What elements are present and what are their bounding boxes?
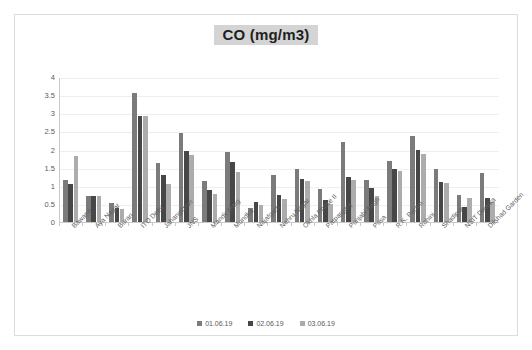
y-axis-tick-label: 4 <box>29 74 55 82</box>
bar[interactable] <box>387 161 392 223</box>
legend-item[interactable]: 01.06.19 <box>197 320 232 327</box>
chart-container: CO (mg/m3) 00.511.522.533.54 BawanaAya N… <box>14 14 518 336</box>
bar[interactable] <box>74 156 79 223</box>
bar[interactable] <box>138 116 143 223</box>
y-axis-tick-label: 0 <box>29 219 55 227</box>
y-axis-tick-label: 2.5 <box>29 129 55 137</box>
y-axis-labels: 00.511.522.533.54 <box>29 78 55 223</box>
bar-group <box>453 78 476 223</box>
chart-title-container: CO (mg/m3) <box>15 25 517 45</box>
bar-group <box>82 78 105 223</box>
bar-group <box>128 78 151 223</box>
bar[interactable] <box>439 182 444 223</box>
bar[interactable] <box>63 180 68 224</box>
y-axis-tick-label: 1.5 <box>29 165 55 173</box>
bar[interactable] <box>68 184 73 223</box>
bar-group <box>59 78 82 223</box>
bar-group <box>267 78 290 223</box>
legend-swatch-icon <box>197 321 202 326</box>
chart-legend: 01.06.1902.06.1903.06.19 <box>15 320 517 327</box>
chart-title: CO (mg/m3) <box>214 25 317 45</box>
legend-item[interactable]: 02.06.19 <box>248 320 283 327</box>
bar[interactable] <box>189 155 194 223</box>
bar-group <box>105 78 128 223</box>
x-axis-labels: BawanaAya NagarBurariITO DelhiJahangirpu… <box>59 225 499 305</box>
bar[interactable] <box>230 162 235 223</box>
bar-series-layer <box>59 78 499 223</box>
bar[interactable] <box>392 169 397 223</box>
bar[interactable] <box>421 154 426 223</box>
plot-area <box>59 78 499 223</box>
legend-swatch-icon <box>248 321 253 326</box>
bar[interactable] <box>161 175 166 223</box>
bar[interactable] <box>132 93 137 224</box>
y-axis-tick-label: 3.5 <box>29 92 55 100</box>
bar-group <box>152 78 175 223</box>
legend-label: 02.06.19 <box>256 320 283 327</box>
y-axis-tick-label: 0.5 <box>29 201 55 209</box>
legend-swatch-icon <box>300 321 305 326</box>
y-axis-tick-label: 2 <box>29 147 55 155</box>
bar[interactable] <box>207 190 212 223</box>
bar[interactable] <box>91 196 96 223</box>
bar-group <box>198 78 221 223</box>
y-axis-tick-label: 3 <box>29 111 55 119</box>
bar[interactable] <box>202 181 207 223</box>
y-axis-tick-label: 1 <box>29 183 55 191</box>
bar-group <box>244 78 267 223</box>
legend-label: 03.06.19 <box>308 320 335 327</box>
legend-label: 01.06.19 <box>205 320 232 327</box>
bar[interactable] <box>143 116 148 223</box>
bar-group <box>383 78 406 223</box>
bar-group <box>430 78 453 223</box>
legend-item[interactable]: 03.06.19 <box>300 320 335 327</box>
